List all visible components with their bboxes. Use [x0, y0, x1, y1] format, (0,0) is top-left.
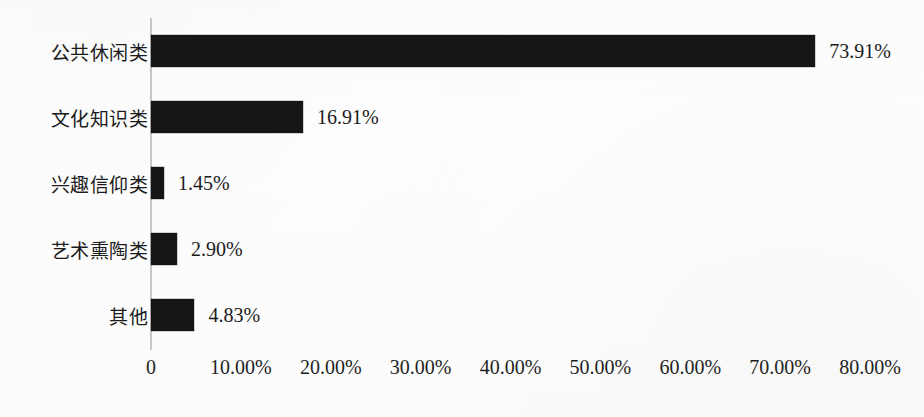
x-tick-label: 60.00% — [659, 356, 721, 379]
bar-value-label: 73.91% — [829, 40, 891, 63]
bar-value-label: 16.91% — [317, 106, 379, 129]
x-axis-tick-labels: 0 10.00% 20.00% 30.00% 40.00% 50.00% 60.… — [0, 356, 924, 396]
category-label: 公共休闲类 — [51, 38, 149, 65]
horizontal-bar-chart: 公共休闲类 73.91% 文化知识类 16.91% 兴趣信仰类 1.45% 艺术… — [0, 0, 924, 417]
x-tick-label: 40.00% — [480, 356, 542, 379]
x-tick-label: 10.00% — [210, 356, 272, 379]
bar-cultural-knowledge — [151, 101, 303, 133]
bar-row: 兴趣信仰类 1.45% — [0, 150, 924, 216]
bar-other — [151, 299, 194, 331]
category-label: 文化知识类 — [51, 104, 149, 131]
plot-area: 公共休闲类 73.91% 文化知识类 16.91% 兴趣信仰类 1.45% 艺术… — [0, 18, 924, 350]
bar-interest-belief — [151, 167, 164, 199]
bar-row: 其他 4.83% — [0, 282, 924, 348]
x-tick-label: 0 — [146, 356, 156, 379]
bar-row: 文化知识类 16.91% — [0, 84, 924, 150]
category-label: 其他 — [109, 302, 148, 329]
bar-row: 公共休闲类 73.91% — [0, 18, 924, 84]
bar-value-label: 1.45% — [178, 172, 230, 195]
x-tick-label: 50.00% — [570, 356, 632, 379]
x-tick-label: 70.00% — [749, 356, 811, 379]
bar-art-cultivation — [151, 233, 177, 265]
bar-row: 艺术熏陶类 2.90% — [0, 216, 924, 282]
x-tick-label: 30.00% — [390, 356, 452, 379]
bar-value-label: 2.90% — [191, 238, 243, 261]
x-tick-label: 20.00% — [300, 356, 362, 379]
category-label: 艺术熏陶类 — [51, 236, 149, 263]
category-label: 兴趣信仰类 — [51, 170, 149, 197]
bar-public-leisure — [151, 35, 815, 67]
x-tick-label: 80.00% — [839, 356, 901, 379]
bar-value-label: 4.83% — [208, 304, 260, 327]
